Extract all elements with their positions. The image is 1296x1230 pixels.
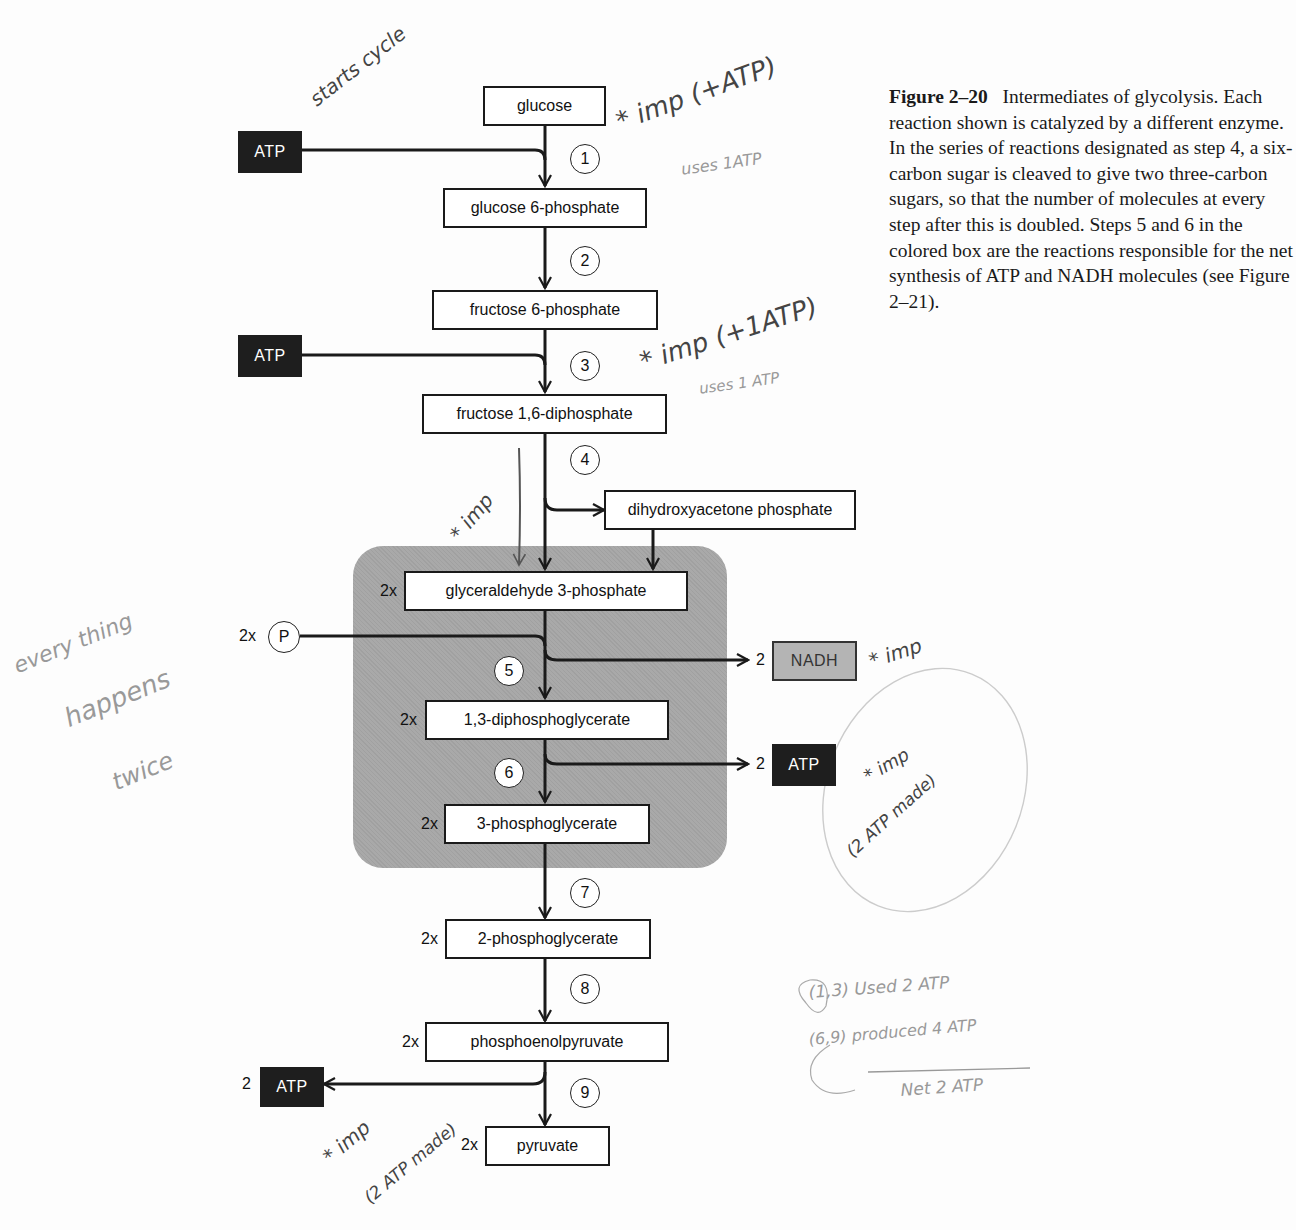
cofactor-label: NADH (791, 652, 838, 670)
intermediate-label: glucose 6-phosphate (471, 199, 620, 217)
step-number: 4 (581, 451, 590, 469)
atp-output-step-6: ATP (772, 744, 836, 786)
intermediate-fructose-1-6-diphosphate: fructose 1,6-diphosphate (422, 394, 667, 434)
step-number: 7 (581, 884, 590, 902)
figure-caption-text: Intermediates of glycolysis. Each reacti… (889, 86, 1293, 312)
atp-output-step-9: ATP (260, 1067, 324, 1107)
step-9-marker: 9 (570, 1078, 600, 1108)
phosphate-count: 2x (239, 627, 256, 645)
intermediate-3-phosphoglycerate: 3-phosphoglycerate (444, 804, 650, 844)
step-number: 2 (581, 252, 590, 270)
step-4-marker: 4 (570, 445, 600, 475)
phosphate-input-step-5: P (268, 621, 300, 653)
intermediate-1-3-diphosphoglycerate: 1,3-diphosphoglycerate (425, 700, 669, 740)
step-2-marker: 2 (570, 246, 600, 276)
nadh-output-step-5: NADH (772, 641, 857, 681)
intermediate-2-phosphoglycerate: 2-phosphoglycerate (445, 919, 651, 959)
cofactor-label: ATP (276, 1078, 307, 1096)
intermediate-pyruvate: pyruvate (485, 1126, 610, 1166)
intermediate-fructose-6-phosphate: fructose 6-phosphate (432, 290, 658, 330)
intermediate-glyceraldehyde-3-phosphate: glyceraldehyde 3-phosphate (404, 571, 688, 611)
intermediate-glucose-6-phosphate: glucose 6-phosphate (443, 188, 647, 228)
intermediate-label: pyruvate (517, 1137, 578, 1155)
figure-number: Figure 2–20 (889, 86, 988, 107)
step-number: 3 (581, 357, 590, 375)
step-number: 9 (581, 1084, 590, 1102)
intermediate-label: fructose 1,6-diphosphate (456, 405, 632, 423)
step-number: 1 (581, 150, 590, 168)
phosphate-label: P (279, 628, 290, 646)
step-number: 6 (505, 764, 514, 782)
multiplier-label: 2x (380, 582, 397, 600)
multiplier-label: 2x (461, 1136, 478, 1154)
step-6-marker: 6 (494, 758, 524, 788)
cofactor-label: ATP (254, 143, 285, 161)
intermediate-label: dihydroxyacetone phosphate (628, 501, 833, 519)
intermediate-label: 2-phosphoglycerate (478, 930, 619, 948)
step-7-marker: 7 (570, 878, 600, 908)
atp-count: 2 (242, 1075, 251, 1093)
step-8-marker: 8 (570, 974, 600, 1004)
atp-input-step-1: ATP (238, 131, 302, 173)
step-1-marker: 1 (570, 144, 600, 174)
figure-caption: Figure 2–20 Intermediates of glycolysis.… (889, 84, 1294, 314)
intermediate-dihydroxyacetone-phosphate: dihydroxyacetone phosphate (604, 490, 856, 530)
step-number: 8 (581, 980, 590, 998)
cofactor-label: ATP (254, 347, 285, 365)
multiplier-label: 2x (400, 711, 417, 729)
nadh-count: 2 (756, 651, 765, 669)
intermediate-label: 1,3-diphosphoglycerate (464, 711, 630, 729)
intermediate-phosphoenolpyruvate: phosphoenolpyruvate (425, 1022, 669, 1062)
intermediate-label: phosphoenolpyruvate (470, 1033, 623, 1051)
multiplier-label: 2x (421, 815, 438, 833)
atp-input-step-3: ATP (238, 335, 302, 377)
atp-count: 2 (756, 755, 765, 773)
multiplier-label: 2x (421, 930, 438, 948)
intermediate-glucose: glucose (483, 86, 606, 126)
intermediate-label: glucose (517, 97, 572, 115)
cofactor-label: ATP (788, 756, 819, 774)
step-3-marker: 3 (570, 351, 600, 381)
multiplier-label: 2x (402, 1033, 419, 1051)
step-5-marker: 5 (494, 656, 524, 686)
step-number: 5 (505, 662, 514, 680)
intermediate-label: glyceraldehyde 3-phosphate (445, 582, 646, 600)
intermediate-label: 3-phosphoglycerate (477, 815, 618, 833)
intermediate-label: fructose 6-phosphate (470, 301, 620, 319)
